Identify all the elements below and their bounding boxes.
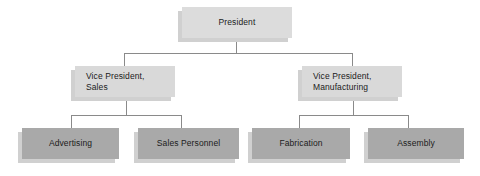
connector-president-bus [124,53,353,54]
connector-to-vp-sales [124,53,125,66]
connector-to-fabrication [299,115,300,128]
president-node[interactable]: President [182,7,292,38]
connector-to-advertising [71,115,72,128]
connector-to-sales-personnel [181,115,182,128]
fabrication-label: Fabrication [279,138,322,148]
vp-manufacturing-node[interactable]: Vice President, Manufacturing [302,66,402,97]
vp-sales-node[interactable]: Vice President, Sales [75,66,175,97]
org-chart-canvas: President Vice President, Sales Vice Pre… [0,0,480,176]
vp-sales-label-line1: Vice President, [86,71,145,81]
advertising-label: Advertising [49,138,92,148]
president-label: President [219,17,256,27]
assembly-label: Assembly [397,138,435,148]
vp-sales-label-line2: Sales [86,82,108,92]
advertising-node[interactable]: Advertising [22,128,119,159]
sales-personnel-label: Sales Personnel [157,138,220,148]
assembly-node[interactable]: Assembly [368,128,464,159]
vp-manufacturing-label-line2: Manufacturing [313,82,368,92]
connector-to-assembly [408,115,409,128]
vp-manufacturing-label-line1: Vice President, [313,71,372,81]
connector-to-vp-manufacturing [352,53,353,66]
fabrication-node[interactable]: Fabrication [252,128,350,159]
sales-personnel-node[interactable]: Sales Personnel [138,128,239,159]
connector-vp-manufacturing-bus [299,115,409,116]
connector-vp-sales-bus [71,115,182,116]
